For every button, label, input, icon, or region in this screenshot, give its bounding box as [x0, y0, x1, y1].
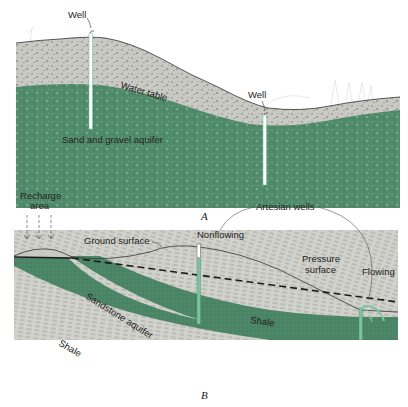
label-well-right: Well — [248, 89, 266, 100]
label-flowing: Flowing — [362, 266, 395, 277]
leader-artesian-nonflowing — [220, 207, 254, 230]
panel-b — [14, 230, 398, 340]
label-pressure: Pressure — [302, 253, 340, 264]
leader-well-left — [87, 18, 91, 28]
caption-a: A — [200, 210, 208, 222]
label-pressure-surface: surface — [305, 264, 336, 275]
label-nonflowing: Nonflowing — [197, 229, 244, 240]
label-ground-surface: Ground surface — [84, 235, 149, 246]
label-sand-gravel-aquifer: Sand and gravel aquifer — [62, 134, 163, 145]
panel-a — [16, 27, 400, 208]
label-well-left: Well — [68, 9, 86, 20]
label-recharge-area: area — [30, 200, 50, 211]
nonflowing-well — [197, 244, 201, 324]
groundwater-diagram: Well Well Water table Sand and gravel aq… — [0, 0, 408, 407]
label-shale-lower: Shale — [57, 337, 84, 359]
label-artesian-wells: Artesian wells — [256, 201, 315, 212]
caption-b: B — [201, 389, 208, 401]
